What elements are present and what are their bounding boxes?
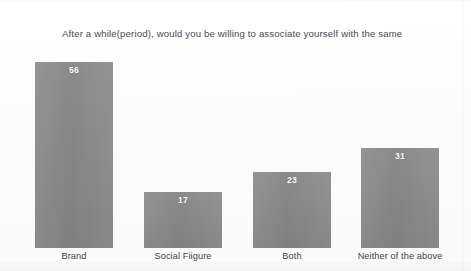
bar[interactable]: 23 — [253, 172, 331, 248]
bar-value-label: 17 — [144, 195, 222, 205]
bar-value-label: 56 — [35, 65, 113, 75]
bar-chart-figure: After a while(period), would you be will… — [0, 0, 471, 271]
category-label-neither-of-the-above: Neither of the above — [340, 251, 460, 261]
bar[interactable]: 31 — [361, 148, 439, 248]
plot-area: 56 17 23 31 — [0, 0, 471, 248]
category-label-social-figure: Social Fiigure — [123, 251, 243, 261]
bar-value-label: 31 — [361, 151, 439, 161]
category-label-brand: Brand — [14, 251, 134, 261]
bar-value-label: 23 — [253, 175, 331, 185]
bar[interactable]: 17 — [144, 192, 222, 248]
bar[interactable]: 56 — [35, 62, 113, 248]
scan-smudge-bottom — [0, 262, 471, 271]
category-label-both: Both — [232, 251, 352, 261]
